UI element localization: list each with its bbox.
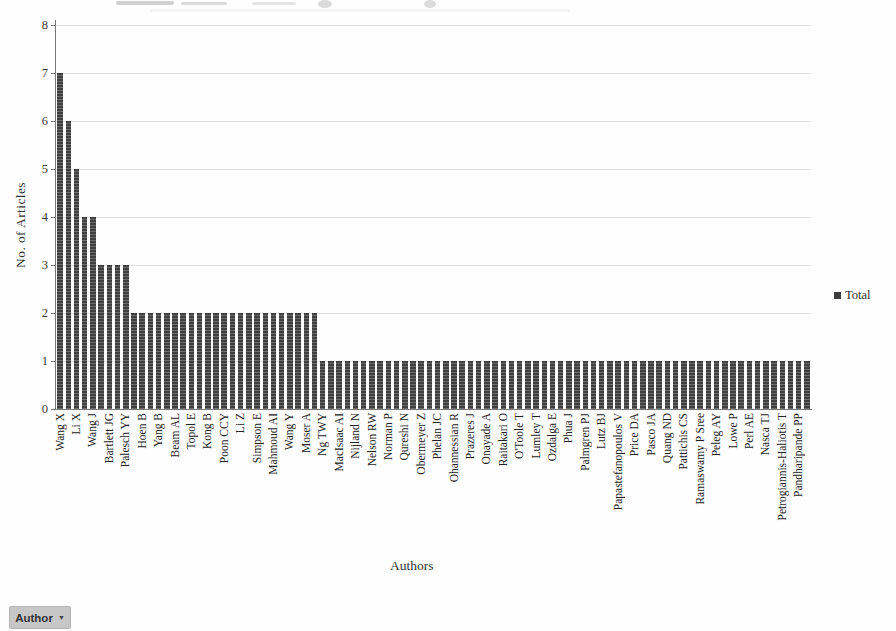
x-category-label: Phua J — [562, 413, 575, 443]
bar — [123, 265, 129, 409]
x-category-label: Phelan JC — [431, 413, 444, 459]
x-category-label: Petrogiannis-Haliotis T — [776, 413, 789, 520]
y-tick-label: 0 — [18, 402, 48, 416]
bar — [213, 313, 219, 409]
bar — [312, 313, 318, 409]
x-category-label: Wang Y — [283, 413, 296, 450]
y-tick-label: 2 — [18, 306, 48, 320]
bar — [566, 361, 572, 409]
x-category-label: Pattichis CS — [677, 413, 690, 470]
gridline — [56, 217, 811, 218]
bar — [673, 361, 679, 409]
bar — [107, 265, 113, 409]
x-axis-line — [55, 409, 812, 410]
bar — [254, 313, 260, 409]
bar — [656, 361, 662, 409]
bar — [238, 313, 244, 409]
author-filter-label: Author — [15, 612, 53, 624]
bar — [697, 361, 703, 409]
bar — [164, 313, 170, 409]
x-category-label: Topol E — [185, 413, 198, 450]
bar — [665, 361, 671, 409]
bar — [615, 361, 621, 409]
bar — [476, 361, 482, 409]
bar — [394, 361, 400, 409]
bar — [763, 361, 769, 409]
x-category-label: Perl AE — [743, 413, 756, 449]
x-axis-title: Authors — [390, 558, 434, 574]
bar — [139, 313, 145, 409]
x-category-label: Mahmoud AI — [267, 413, 280, 475]
x-category-label: Bartlett JG — [103, 413, 116, 463]
bar — [451, 361, 457, 409]
x-category-label: Nijland N — [349, 413, 362, 459]
y-axis-line — [55, 20, 56, 410]
bar — [82, 217, 88, 409]
bar — [377, 361, 383, 409]
bar — [180, 313, 186, 409]
bar — [558, 361, 564, 409]
bar — [624, 361, 630, 409]
bar — [205, 313, 211, 409]
bar — [492, 361, 498, 409]
y-axis-title: No. of Articles — [13, 182, 29, 268]
bar — [410, 361, 416, 409]
x-category-label: Hoen B — [136, 413, 149, 448]
x-category-label: Moser A — [300, 413, 313, 453]
x-category-label: MacIsaac AI — [333, 413, 346, 471]
bar — [443, 361, 449, 409]
x-category-label: Ohannessian R — [448, 413, 461, 482]
x-category-label: Wang J — [86, 413, 99, 447]
x-category-label: Nasca TJ — [759, 413, 772, 455]
bar — [780, 361, 786, 409]
bar — [115, 265, 121, 409]
bar — [131, 313, 137, 409]
bar — [804, 361, 810, 409]
bar — [74, 169, 80, 409]
bar — [345, 361, 351, 409]
bar — [501, 361, 507, 409]
bar — [221, 313, 227, 409]
y-tick-label: 7 — [18, 66, 48, 80]
bar — [681, 361, 687, 409]
x-category-label: Onayade A — [480, 413, 493, 464]
bar — [517, 361, 523, 409]
bar — [796, 361, 802, 409]
bar — [525, 361, 531, 409]
bar — [632, 361, 638, 409]
cropped-title-artifact — [252, 2, 296, 5]
bar — [583, 361, 589, 409]
bar — [271, 313, 277, 409]
bar — [90, 217, 96, 409]
author-filter-button[interactable]: Author ▼ — [9, 606, 71, 629]
x-category-label: O'Toole T — [513, 413, 526, 459]
bar — [148, 313, 154, 409]
bar — [172, 313, 178, 409]
bar — [574, 361, 580, 409]
bar — [755, 361, 761, 409]
y-tick-label: 5 — [18, 162, 48, 176]
legend-label: Total — [845, 288, 871, 303]
x-category-label: Ng TWY — [316, 413, 329, 456]
bar — [788, 361, 794, 409]
bar — [98, 265, 104, 409]
x-category-label: Li Z — [234, 413, 247, 433]
bar — [197, 313, 203, 409]
x-category-label: Lowe P — [727, 413, 740, 448]
bar — [435, 361, 441, 409]
x-category-label: Wang X — [54, 413, 67, 451]
x-category-label: Simpson E — [251, 413, 264, 463]
cropped-title-artifact — [318, 0, 332, 8]
cropped-title-artifact — [150, 9, 570, 12]
x-category-label: Palmgren PJ — [579, 413, 592, 471]
bar — [156, 313, 162, 409]
bar — [353, 361, 359, 409]
x-category-label: Lumley T — [530, 413, 543, 458]
bar — [189, 313, 195, 409]
gridline — [56, 169, 811, 170]
bar — [607, 361, 613, 409]
bar — [747, 361, 753, 409]
scanned-page: No. of Articles 012345678Wang XLi XWang … — [0, 0, 896, 631]
bar — [714, 361, 720, 409]
bar — [599, 361, 605, 409]
